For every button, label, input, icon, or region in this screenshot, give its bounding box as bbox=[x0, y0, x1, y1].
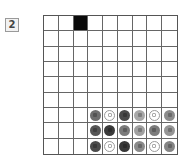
board-cell[interactable] bbox=[74, 123, 89, 138]
board-cell[interactable] bbox=[74, 139, 89, 154]
game-piece-icon[interactable] bbox=[134, 110, 145, 121]
board-cell[interactable] bbox=[118, 93, 133, 108]
ring-piece-icon[interactable] bbox=[104, 141, 115, 152]
board-cell[interactable] bbox=[103, 123, 118, 138]
board-cell[interactable] bbox=[147, 139, 162, 154]
board-cell[interactable] bbox=[103, 77, 118, 92]
game-piece-icon[interactable] bbox=[90, 141, 101, 152]
board-cell[interactable] bbox=[44, 16, 59, 31]
ring-piece-icon[interactable] bbox=[104, 110, 115, 121]
board-cell[interactable] bbox=[147, 16, 162, 31]
board-cell[interactable] bbox=[162, 62, 177, 77]
board-cell[interactable] bbox=[147, 62, 162, 77]
board-cell[interactable] bbox=[162, 31, 177, 46]
board-cell[interactable] bbox=[133, 31, 148, 46]
board-cell[interactable] bbox=[133, 123, 148, 138]
board-cell[interactable] bbox=[88, 93, 103, 108]
board-cell[interactable] bbox=[103, 16, 118, 31]
game-board bbox=[43, 15, 178, 155]
board-cell[interactable] bbox=[133, 47, 148, 62]
board-cell[interactable] bbox=[118, 62, 133, 77]
board-cell[interactable] bbox=[88, 16, 103, 31]
board-cell[interactable] bbox=[88, 62, 103, 77]
game-piece-icon[interactable] bbox=[90, 125, 101, 136]
board-cell[interactable] bbox=[162, 123, 177, 138]
ring-piece-icon[interactable] bbox=[149, 141, 160, 152]
game-piece-icon[interactable] bbox=[149, 125, 160, 136]
board-cell[interactable] bbox=[88, 139, 103, 154]
board-cell[interactable] bbox=[133, 16, 148, 31]
board-cell[interactable] bbox=[74, 62, 89, 77]
ring-piece-icon[interactable] bbox=[149, 110, 160, 121]
board-cell[interactable] bbox=[74, 77, 89, 92]
board-cell[interactable] bbox=[133, 62, 148, 77]
filled-cell[interactable] bbox=[74, 16, 89, 31]
game-piece-icon[interactable] bbox=[104, 125, 115, 136]
board-cell[interactable] bbox=[59, 108, 74, 123]
board-cell[interactable] bbox=[88, 31, 103, 46]
board-cell[interactable] bbox=[44, 93, 59, 108]
board-cell[interactable] bbox=[118, 47, 133, 62]
game-piece-icon[interactable] bbox=[119, 141, 130, 152]
board-cell[interactable] bbox=[59, 123, 74, 138]
board-cell[interactable] bbox=[74, 47, 89, 62]
game-piece-icon[interactable] bbox=[164, 141, 175, 152]
board-cell[interactable] bbox=[88, 77, 103, 92]
board-cell[interactable] bbox=[162, 108, 177, 123]
board-cell[interactable] bbox=[59, 139, 74, 154]
board-cell[interactable] bbox=[44, 47, 59, 62]
board-cell[interactable] bbox=[59, 93, 74, 108]
board-cell[interactable] bbox=[44, 123, 59, 138]
game-piece-icon[interactable] bbox=[164, 110, 175, 121]
board-cell[interactable] bbox=[162, 47, 177, 62]
board-cell[interactable] bbox=[59, 31, 74, 46]
board-cell[interactable] bbox=[59, 77, 74, 92]
game-piece-icon[interactable] bbox=[119, 110, 130, 121]
board-cell[interactable] bbox=[103, 47, 118, 62]
board-cell[interactable] bbox=[118, 16, 133, 31]
board-cell[interactable] bbox=[74, 31, 89, 46]
board-cell[interactable] bbox=[118, 31, 133, 46]
board-cell[interactable] bbox=[118, 108, 133, 123]
board-cell[interactable] bbox=[118, 123, 133, 138]
board-cell[interactable] bbox=[103, 139, 118, 154]
board-cell[interactable] bbox=[133, 93, 148, 108]
board-cell[interactable] bbox=[59, 62, 74, 77]
board-cell[interactable] bbox=[147, 108, 162, 123]
board-cell[interactable] bbox=[74, 108, 89, 123]
board-cell[interactable] bbox=[162, 139, 177, 154]
game-piece-icon[interactable] bbox=[164, 125, 175, 136]
board-cell[interactable] bbox=[44, 62, 59, 77]
board-cell[interactable] bbox=[147, 123, 162, 138]
board-cell[interactable] bbox=[162, 77, 177, 92]
board-cell[interactable] bbox=[44, 108, 59, 123]
board-cell[interactable] bbox=[59, 16, 74, 31]
board-cell[interactable] bbox=[147, 31, 162, 46]
board-cell[interactable] bbox=[162, 93, 177, 108]
board-cell[interactable] bbox=[162, 16, 177, 31]
board-cell[interactable] bbox=[88, 47, 103, 62]
board-cell[interactable] bbox=[133, 108, 148, 123]
board-cell[interactable] bbox=[103, 93, 118, 108]
game-piece-icon[interactable] bbox=[119, 125, 130, 136]
board-cell[interactable] bbox=[103, 62, 118, 77]
board-cell[interactable] bbox=[118, 77, 133, 92]
board-cell[interactable] bbox=[44, 31, 59, 46]
board-cell[interactable] bbox=[133, 139, 148, 154]
board-cell[interactable] bbox=[147, 93, 162, 108]
board-cell[interactable] bbox=[44, 77, 59, 92]
board-cell[interactable] bbox=[147, 47, 162, 62]
board-cell[interactable] bbox=[103, 31, 118, 46]
board-cell[interactable] bbox=[88, 123, 103, 138]
game-piece-icon[interactable] bbox=[134, 125, 145, 136]
board-cell[interactable] bbox=[74, 93, 89, 108]
board-cell[interactable] bbox=[88, 108, 103, 123]
game-piece-icon[interactable] bbox=[134, 141, 145, 152]
board-cell[interactable] bbox=[118, 139, 133, 154]
board-cell[interactable] bbox=[103, 108, 118, 123]
board-cell[interactable] bbox=[147, 77, 162, 92]
board-cell[interactable] bbox=[133, 77, 148, 92]
board-cell[interactable] bbox=[44, 139, 59, 154]
game-piece-icon[interactable] bbox=[90, 110, 101, 121]
board-cell[interactable] bbox=[59, 47, 74, 62]
